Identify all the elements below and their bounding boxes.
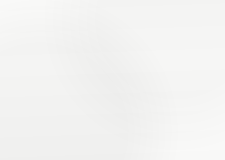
plot-labels <box>0 0 225 160</box>
figure-panel <box>0 0 225 160</box>
